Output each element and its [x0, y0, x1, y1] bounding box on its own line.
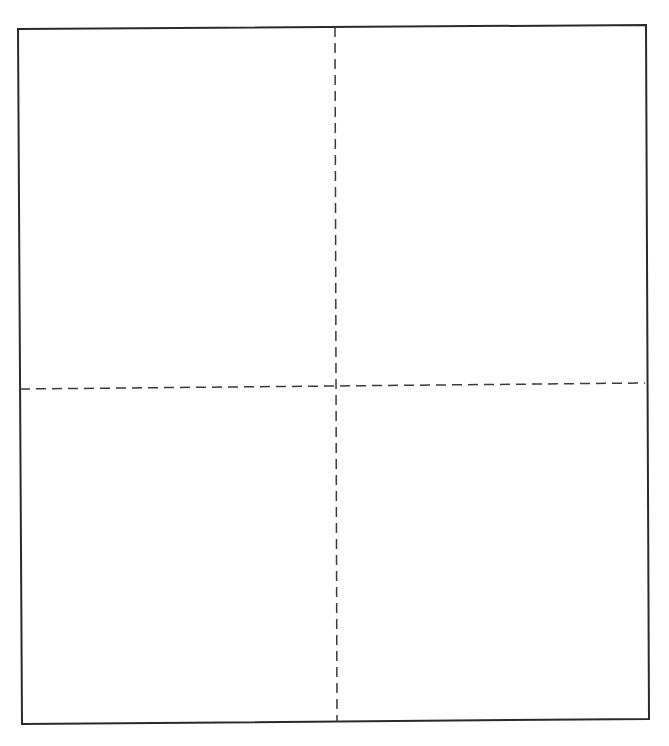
quadrant-diagram	[0, 0, 669, 746]
